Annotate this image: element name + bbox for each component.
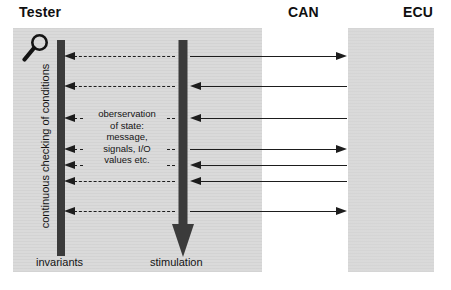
arrowhead-right-icon [336,207,347,215]
feedback-arrow-2 [64,82,177,91]
arrowhead-right-icon [336,52,347,60]
column-title-ecu: ECU [403,4,433,20]
feedback-dash-line [74,56,175,57]
arrowhead-left-icon [190,177,201,185]
bus-line [190,56,338,57]
feedback-dash-line [74,86,175,87]
bus-arrow-5-left [190,161,347,170]
feedback-arrow-6 [64,177,177,186]
arrowhead-left-icon [190,82,201,90]
continuous-checking-caption: continuous checking of conditions [39,51,51,241]
arrowhead-right-icon [336,145,347,153]
bus-line [199,118,347,119]
feedback-dash-segment [167,165,175,166]
feedback-dash-segment [167,118,175,119]
diagram-canvas: Tester CAN ECU ʃ invariants continuous c… [0,0,451,290]
bus-line [199,181,347,182]
bus-arrow-4-right [190,145,347,154]
arrowhead-left-icon [190,161,201,169]
arrowhead-left-icon [190,114,201,122]
bus-line [199,86,347,87]
column-title-can: CAN [288,4,319,20]
column-title-tester: Tester [19,4,61,20]
feedback-arrow-7 [64,207,177,216]
feedback-arrow-4 [64,145,177,154]
feedback-arrow-5 [64,161,177,170]
bus-arrow-3-left [190,114,347,123]
feedback-dash-segment [74,165,83,166]
bus-line [199,165,347,166]
invariants-label: invariants [36,256,83,268]
observation-line-3: message, [88,131,166,143]
feedback-dash-segment [74,149,83,150]
ecu-panel: ʃ [348,28,434,272]
feedback-arrow-3 [64,114,177,123]
bus-arrow-1-right [190,52,347,61]
bus-arrow-2-left [190,82,347,91]
feedback-arrow-1 [64,52,177,61]
feedback-dash-line [74,211,175,212]
feedback-dash-segment [74,118,83,119]
bus-arrow-6-left [190,177,347,186]
bus-arrow-7-right [190,207,347,216]
bus-line [190,149,338,150]
feedback-dash-line [74,181,175,182]
feedback-dash-segment [167,149,175,150]
bus-line [190,211,338,212]
stimulation-label: stimulation [150,256,203,268]
